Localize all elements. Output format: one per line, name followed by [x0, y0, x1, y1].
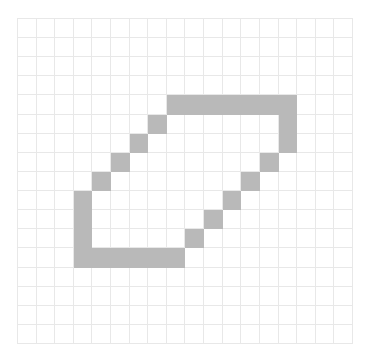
grid-cell-filled[interactable]	[223, 191, 242, 210]
grid-cell[interactable]	[167, 153, 186, 172]
grid-cell[interactable]	[148, 134, 167, 153]
grid-cell[interactable]	[316, 134, 335, 153]
grid-cell[interactable]	[297, 19, 316, 38]
grid-cell[interactable]	[37, 76, 56, 95]
grid-cell[interactable]	[260, 38, 279, 57]
grid-cell[interactable]	[130, 153, 149, 172]
grid-cell[interactable]	[260, 210, 279, 229]
grid-cell[interactable]	[223, 134, 242, 153]
grid-cell[interactable]	[130, 191, 149, 210]
grid-cell[interactable]	[297, 95, 316, 114]
grid-cell[interactable]	[316, 115, 335, 134]
grid-cell[interactable]	[18, 248, 37, 267]
grid-cell-filled[interactable]	[241, 95, 260, 114]
grid-cell[interactable]	[92, 134, 111, 153]
grid-cell[interactable]	[260, 19, 279, 38]
grid-cell[interactable]	[260, 134, 279, 153]
grid-cell[interactable]	[92, 210, 111, 229]
grid-cell[interactable]	[167, 325, 186, 344]
grid-cell[interactable]	[167, 115, 186, 134]
grid-cell[interactable]	[297, 134, 316, 153]
grid-cell[interactable]	[92, 229, 111, 248]
grid-cell[interactable]	[297, 306, 316, 325]
grid-cell[interactable]	[111, 229, 130, 248]
grid-cell[interactable]	[204, 38, 223, 57]
grid-cell[interactable]	[111, 191, 130, 210]
grid-cell[interactable]	[130, 287, 149, 306]
grid-cell[interactable]	[111, 38, 130, 57]
grid-cell[interactable]	[260, 268, 279, 287]
grid-cell[interactable]	[55, 268, 74, 287]
grid-cell[interactable]	[55, 325, 74, 344]
grid-cell[interactable]	[130, 210, 149, 229]
grid-cell[interactable]	[297, 229, 316, 248]
grid-cell[interactable]	[18, 95, 37, 114]
grid-cell[interactable]	[37, 19, 56, 38]
grid-cell[interactable]	[279, 229, 298, 248]
grid-cell[interactable]	[204, 76, 223, 95]
grid-cell[interactable]	[223, 229, 242, 248]
grid-cell[interactable]	[279, 57, 298, 76]
grid-cell[interactable]	[185, 306, 204, 325]
grid-cell[interactable]	[55, 95, 74, 114]
grid-cell[interactable]	[260, 172, 279, 191]
grid-cell[interactable]	[148, 325, 167, 344]
grid-cell-filled[interactable]	[260, 153, 279, 172]
grid-cell[interactable]	[260, 229, 279, 248]
grid-cell[interactable]	[92, 191, 111, 210]
grid-cell[interactable]	[74, 57, 93, 76]
grid-cell[interactable]	[167, 76, 186, 95]
grid-cell[interactable]	[297, 76, 316, 95]
grid-cell[interactable]	[37, 306, 56, 325]
grid-cell[interactable]	[204, 19, 223, 38]
grid-cell[interactable]	[223, 115, 242, 134]
grid-cell[interactable]	[18, 229, 37, 248]
grid-cell[interactable]	[260, 287, 279, 306]
grid-cell-filled[interactable]	[130, 134, 149, 153]
grid-cell[interactable]	[167, 287, 186, 306]
grid-cell-filled[interactable]	[130, 248, 149, 267]
grid-cell[interactable]	[130, 38, 149, 57]
grid-cell[interactable]	[241, 306, 260, 325]
grid-cell[interactable]	[18, 38, 37, 57]
grid-cell[interactable]	[185, 19, 204, 38]
grid-cell-filled[interactable]	[74, 191, 93, 210]
grid-cell-filled[interactable]	[279, 95, 298, 114]
grid-cell[interactable]	[185, 134, 204, 153]
grid-cell-filled[interactable]	[241, 172, 260, 191]
grid-cell[interactable]	[185, 172, 204, 191]
grid-cell[interactable]	[334, 229, 353, 248]
grid-cell[interactable]	[37, 210, 56, 229]
grid-cell[interactable]	[334, 38, 353, 57]
grid-cell[interactable]	[260, 248, 279, 267]
grid-cell[interactable]	[316, 153, 335, 172]
grid-cell-filled[interactable]	[204, 95, 223, 114]
grid-cell[interactable]	[18, 191, 37, 210]
grid-cell[interactable]	[148, 210, 167, 229]
grid-cell[interactable]	[297, 248, 316, 267]
grid-cell-filled[interactable]	[167, 248, 186, 267]
grid-cell[interactable]	[316, 191, 335, 210]
grid-cell[interactable]	[92, 325, 111, 344]
grid-cell[interactable]	[223, 153, 242, 172]
pixel-grid[interactable]	[17, 18, 353, 344]
grid-cell[interactable]	[55, 153, 74, 172]
grid-cell[interactable]	[223, 19, 242, 38]
grid-cell[interactable]	[130, 172, 149, 191]
grid-cell[interactable]	[37, 325, 56, 344]
grid-cell[interactable]	[55, 229, 74, 248]
grid-cell[interactable]	[37, 115, 56, 134]
grid-cell[interactable]	[334, 153, 353, 172]
grid-cell[interactable]	[334, 248, 353, 267]
grid-cell[interactable]	[55, 191, 74, 210]
grid-cell[interactable]	[241, 248, 260, 267]
grid-cell[interactable]	[92, 95, 111, 114]
grid-cell[interactable]	[223, 172, 242, 191]
grid-cell[interactable]	[297, 153, 316, 172]
grid-cell[interactable]	[334, 268, 353, 287]
grid-cell[interactable]	[18, 287, 37, 306]
grid-cell[interactable]	[148, 287, 167, 306]
grid-cell[interactable]	[18, 57, 37, 76]
grid-cell[interactable]	[55, 287, 74, 306]
grid-cell[interactable]	[18, 153, 37, 172]
